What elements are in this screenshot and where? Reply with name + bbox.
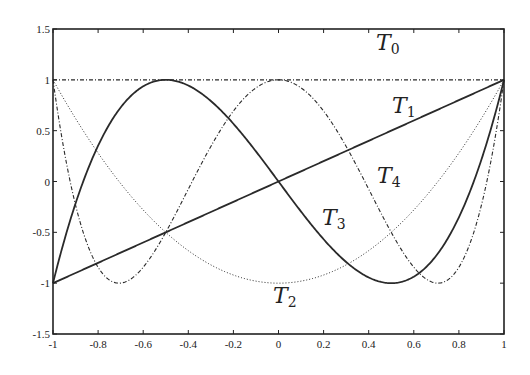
curve-labels: T0T1T2T3T4 xyxy=(273,30,416,310)
x-tick-label: 0.2 xyxy=(317,338,331,350)
x-tick-label: -0.6 xyxy=(134,338,152,350)
curve-label-t3: T3 xyxy=(322,205,346,232)
curve-label-t4: T4 xyxy=(377,163,401,190)
y-tick-label: -1 xyxy=(41,277,50,289)
x-tick-label: -0.4 xyxy=(180,338,198,350)
y-tick-label: 1 xyxy=(45,74,51,86)
x-tick-label: -0.2 xyxy=(225,338,242,350)
curve-label-t2: T2 xyxy=(273,283,297,310)
y-tick-label: -0.5 xyxy=(33,226,51,238)
x-tick-label: 0.4 xyxy=(362,338,376,350)
curve-group xyxy=(53,80,504,283)
y-axis: -1.5-1-0.500.511.5 xyxy=(33,23,504,340)
y-tick-label: 1.5 xyxy=(36,23,50,35)
y-tick-label: 0 xyxy=(45,176,51,188)
x-tick-label: 0.6 xyxy=(407,338,421,350)
y-tick-label: -1.5 xyxy=(33,328,51,340)
x-tick-label: 0 xyxy=(276,338,282,350)
chebyshev-polynomials-chart: -1-0.8-0.6-0.4-0.200.20.40.60.81 -1.5-1-… xyxy=(0,0,530,375)
y-tick-label: 0.5 xyxy=(36,125,50,137)
x-tick-label: 0.8 xyxy=(452,338,466,350)
curve-label-t1: T1 xyxy=(392,93,416,120)
curve-label-t0: T0 xyxy=(376,30,400,57)
x-tick-label: 1 xyxy=(501,338,507,350)
x-tick-label: -0.8 xyxy=(89,338,107,350)
